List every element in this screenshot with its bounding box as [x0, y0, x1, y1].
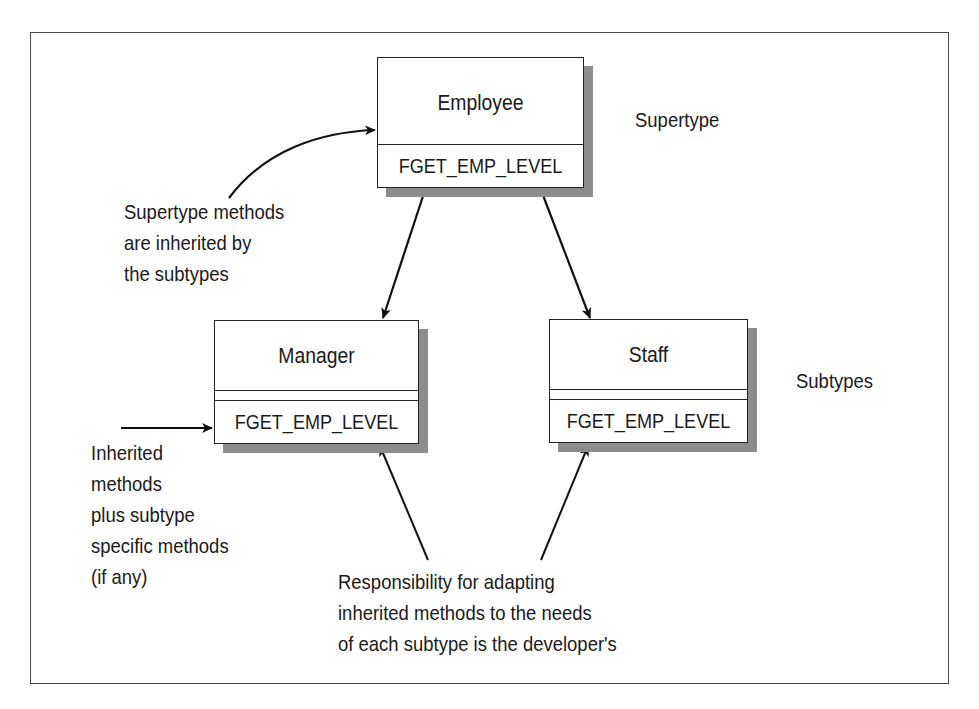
- class-method-staff: FGET_EMP_LEVEL: [564, 409, 733, 433]
- annotation-line: Inherited: [91, 437, 163, 468]
- subtypes-label: Subtypes: [796, 365, 873, 396]
- class-divider: [215, 400, 418, 401]
- class-box-staff: Staff FGET_EMP_LEVEL: [549, 319, 748, 443]
- annotation-line: are inherited by: [124, 227, 251, 258]
- annotation-line: the subtypes: [124, 258, 229, 289]
- annotation-line: specific methods: [91, 530, 229, 561]
- class-name-manager: Manager: [227, 343, 406, 369]
- annotation-line: Supertype methods: [124, 196, 284, 227]
- annotation-line: methods: [91, 468, 162, 499]
- class-box-manager: Manager FGET_EMP_LEVEL: [214, 320, 419, 444]
- supertype-label: Supertype: [635, 104, 719, 135]
- annotation-line: Responsibility for adapting: [338, 566, 555, 597]
- class-name-staff: Staff: [562, 342, 735, 368]
- annotation-line: of each subtype is the developer's: [338, 628, 617, 659]
- annotation-line: plus subtype: [91, 499, 195, 530]
- class-method-manager: FGET_EMP_LEVEL: [229, 410, 404, 434]
- class-divider: [215, 390, 418, 391]
- class-box-employee: Employee FGET_EMP_LEVEL: [377, 57, 584, 188]
- class-name-employee: Employee: [390, 90, 570, 116]
- annotation-line: (if any): [91, 561, 147, 592]
- class-divider: [550, 399, 747, 400]
- class-divider: [550, 389, 747, 390]
- class-method-employee: FGET_EMP_LEVEL: [392, 154, 568, 178]
- annotation-line: inherited methods to the needs: [338, 597, 592, 628]
- class-divider: [378, 144, 583, 145]
